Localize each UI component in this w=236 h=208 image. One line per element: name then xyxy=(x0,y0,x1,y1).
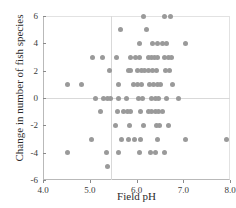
data-point xyxy=(183,41,188,46)
data-point xyxy=(132,137,137,142)
data-point xyxy=(119,137,124,142)
y-axis-title: Change in number of fish species xyxy=(13,3,25,173)
y-tick-label: -2 xyxy=(31,120,39,130)
scatter-plot-figure: 4.05.06.07.08.0 6420-2-4-6 Field pH Chan… xyxy=(0,0,236,208)
data-point xyxy=(167,68,172,73)
data-point xyxy=(139,82,144,87)
data-point xyxy=(100,55,105,60)
x-axis-title: Field pH xyxy=(43,190,230,202)
data-point xyxy=(168,14,173,19)
data-point xyxy=(183,137,188,142)
y-tick-label: 4 xyxy=(34,38,39,48)
data-point xyxy=(138,137,143,142)
data-point xyxy=(89,137,94,142)
data-point xyxy=(108,96,113,101)
data-point xyxy=(162,14,167,19)
data-point xyxy=(116,96,121,101)
data-point xyxy=(137,55,142,60)
data-point xyxy=(141,14,146,19)
y-axis-ticks xyxy=(43,16,47,180)
plot-area xyxy=(43,16,230,180)
data-point xyxy=(127,123,132,128)
data-point xyxy=(104,150,109,155)
y-tick xyxy=(43,180,46,181)
data-point xyxy=(126,137,131,142)
y-tick-label: 6 xyxy=(34,11,39,21)
data-point xyxy=(138,109,143,114)
y-tick xyxy=(43,16,46,17)
data-point xyxy=(90,55,95,60)
data-point xyxy=(154,68,159,73)
y-tick xyxy=(43,125,46,126)
data-point xyxy=(176,96,181,101)
data-point xyxy=(224,137,229,142)
data-point xyxy=(155,55,160,60)
y-tick-label: -6 xyxy=(31,175,39,185)
x-tick xyxy=(230,180,231,183)
data-point xyxy=(153,150,158,155)
data-point xyxy=(164,96,169,101)
data-point xyxy=(98,109,103,114)
data-point xyxy=(169,55,174,60)
y-tick xyxy=(43,98,46,99)
data-point xyxy=(166,123,171,128)
data-point xyxy=(118,27,123,32)
data-point xyxy=(114,55,119,60)
y-tick xyxy=(43,153,46,154)
data-point xyxy=(105,164,110,169)
y-tick xyxy=(43,71,46,72)
y-tick-label: 0 xyxy=(34,93,39,103)
data-point xyxy=(124,96,129,101)
data-point xyxy=(65,82,70,87)
data-point xyxy=(93,96,98,101)
data-point xyxy=(140,96,145,101)
data-point xyxy=(113,123,118,128)
data-point xyxy=(155,137,160,142)
data-point xyxy=(160,109,165,114)
data-point xyxy=(156,96,161,101)
y-tick xyxy=(43,43,46,44)
y-tick-label: 2 xyxy=(34,66,39,76)
y-tick-label: -4 xyxy=(31,148,39,158)
data-point xyxy=(141,123,146,128)
